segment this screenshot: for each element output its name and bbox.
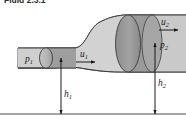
h1-label: h1 [64,89,72,100]
inlet-cross-section-group [40,48,77,68]
fluid-pipe-diagram: Fluid 2.3.1 [0,0,186,125]
outlet-back-disk [142,15,162,72]
h2-label: h2 [158,78,167,89]
diagram-canvas: h1 h2 u1 u2 p1 [0,0,186,125]
inlet-cross-section-disk [40,48,53,68]
outlet-cross-section-disk [116,15,141,72]
